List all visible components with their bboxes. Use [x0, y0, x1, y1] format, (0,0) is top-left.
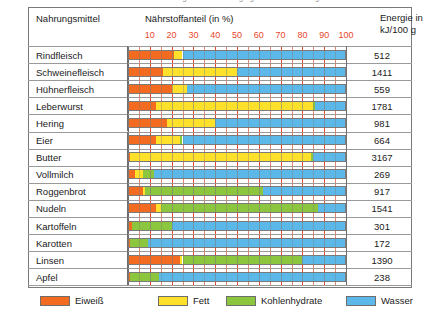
bar-gridline — [281, 169, 282, 179]
bar-gridline — [346, 255, 347, 265]
legend-item-carb[interactable]: Kohlenhydrate — [226, 295, 322, 306]
bar-gridline — [226, 203, 227, 213]
bar-gridline — [161, 152, 162, 162]
bar-gridline — [292, 118, 293, 128]
bar-gridline — [324, 135, 325, 145]
bar-gridline — [215, 203, 216, 213]
bar-gridline — [281, 221, 282, 231]
bar-segment-protein — [128, 50, 174, 60]
bar-gridline — [150, 238, 151, 248]
bar-gridline — [237, 118, 238, 128]
row-separator — [28, 132, 412, 133]
bar-gridline — [150, 272, 151, 282]
bar-gridline — [237, 272, 238, 282]
stacked-bar — [128, 186, 346, 196]
bar-gridline — [204, 135, 205, 145]
table-row[interactable]: Leberwurst1781 — [28, 97, 412, 114]
bar-gridline — [161, 169, 162, 179]
row-separator — [28, 114, 412, 115]
row-separator — [28, 285, 412, 286]
bar-gridline — [139, 255, 140, 265]
stacked-bar — [128, 152, 346, 162]
bar-gridline — [259, 118, 260, 128]
bar-gridline — [346, 152, 347, 162]
bar-segment-protein — [128, 186, 143, 196]
bar-gridline — [313, 84, 314, 94]
bar-gridline — [237, 84, 238, 94]
bar-gridline — [193, 101, 194, 111]
header-nutrient-column: Nährstoffanteil (in %) — [145, 13, 234, 24]
bar-gridline — [150, 221, 151, 231]
bar-gridline — [281, 118, 282, 128]
table-row[interactable]: Hering981 — [28, 114, 412, 131]
bar-gridline — [346, 118, 347, 128]
bar-gridline — [139, 203, 140, 213]
bar-gridline — [237, 238, 238, 248]
bar-gridline — [292, 238, 293, 248]
table-row[interactable]: Linsen1390 — [28, 251, 412, 268]
energy-value: 981 — [358, 117, 406, 128]
bar-gridline — [183, 255, 184, 265]
table-row[interactable]: Schweinefleisch1411 — [28, 63, 412, 80]
food-label: Rindfleisch — [36, 49, 82, 60]
bar-gridline — [237, 101, 238, 111]
bar-gridline — [139, 67, 140, 77]
bar-gridline — [226, 50, 227, 60]
bar-gridline — [193, 67, 194, 77]
bar-gridline — [335, 169, 336, 179]
bar-gridline — [302, 203, 303, 213]
bar-gridline — [302, 221, 303, 231]
table-row[interactable]: Vollmilch269 — [28, 166, 412, 183]
bar-gridline — [248, 135, 249, 145]
legend-item-fat[interactable]: Fett — [158, 295, 209, 306]
bar-gridline — [128, 169, 129, 179]
x-axis-ticks: 102030405060708090100 — [128, 30, 346, 43]
legend-item-water[interactable]: Wasser — [346, 295, 413, 306]
bar-gridline — [313, 255, 314, 265]
x-axis-tick-10: 10 — [145, 30, 155, 40]
bar-gridline — [248, 84, 249, 94]
bar-gridline — [270, 221, 271, 231]
bar-gridline — [248, 152, 249, 162]
bar-gridline — [335, 186, 336, 196]
bar-gridline — [248, 238, 249, 248]
table-row[interactable]: Roggenbrot917 — [28, 183, 412, 200]
row-separator — [28, 46, 412, 47]
table-row[interactable]: Butter3167 — [28, 149, 412, 166]
bar-segment-protein — [128, 135, 156, 145]
bar-gridline — [128, 84, 129, 94]
table-row[interactable]: Eier664 — [28, 132, 412, 149]
bar-gridline — [226, 169, 227, 179]
table-row[interactable]: Apfel238 — [28, 268, 412, 285]
bar-gridline — [193, 272, 194, 282]
bar-gridline — [324, 169, 325, 179]
bar-gridline — [193, 221, 194, 231]
bar-gridline — [139, 101, 140, 111]
bar-gridline — [172, 101, 173, 111]
table-row[interactable]: Hühnerfleisch559 — [28, 80, 412, 97]
food-label: Kartoffeln — [36, 220, 77, 231]
bar-gridline — [204, 203, 205, 213]
bar-segment-protein — [128, 203, 156, 213]
bar-segment-water — [263, 186, 346, 196]
bar-gridline — [226, 238, 227, 248]
table-row[interactable]: Rindfleisch512 — [28, 46, 412, 63]
bar-gridline — [346, 169, 347, 179]
bar-gridline — [172, 238, 173, 248]
x-axis-tick-40: 40 — [210, 30, 220, 40]
food-label: Eier — [36, 135, 53, 146]
bar-gridline — [346, 238, 347, 248]
table-row[interactable]: Nudeln1541 — [28, 200, 412, 217]
legend-item-protein[interactable]: Eiweiß — [40, 295, 104, 306]
bar-gridline — [335, 84, 336, 94]
bar-gridline — [161, 272, 162, 282]
bar-segment-water — [318, 203, 346, 213]
bar-segment-protein — [128, 101, 156, 111]
bar-gridline — [313, 169, 314, 179]
bar-gridline — [335, 221, 336, 231]
table-row[interactable]: Karotten172 — [28, 234, 412, 251]
bar-gridline — [204, 272, 205, 282]
table-row[interactable]: Kartoffeln301 — [28, 217, 412, 234]
bar-gridline — [226, 135, 227, 145]
bar-gridline — [128, 118, 129, 128]
